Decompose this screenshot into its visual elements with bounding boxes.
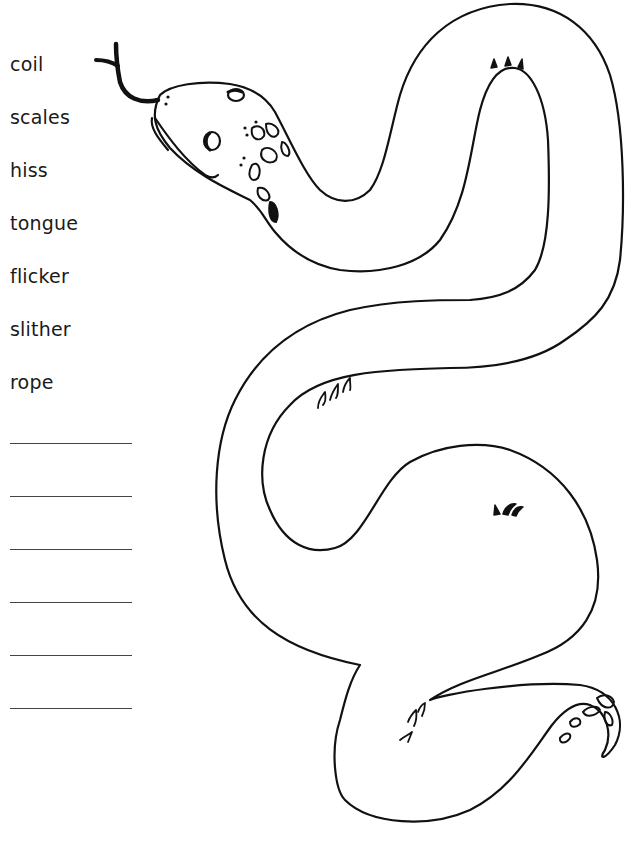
snake-nostril-eye-icon (228, 89, 244, 101)
snake-spikes-tail (400, 703, 425, 742)
snake-spikes-top (491, 57, 523, 69)
snake-neck-scales (250, 124, 290, 222)
snake-illustration (0, 0, 636, 844)
snake-spikes-lower (494, 504, 523, 516)
snake-eye-icon (204, 132, 220, 150)
snake-body-outer (155, 4, 623, 822)
snake-tongue-icon (96, 44, 158, 101)
